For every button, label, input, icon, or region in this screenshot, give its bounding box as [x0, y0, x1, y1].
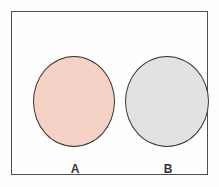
set-circle-b[interactable] [125, 56, 209, 147]
set-label-b: B [158, 163, 178, 175]
set-circle-a[interactable] [33, 56, 115, 147]
set-label-a: A [65, 163, 85, 175]
diagram-frame: A B [11, 11, 208, 175]
venn-diagram-figure: A B [0, 0, 219, 187]
